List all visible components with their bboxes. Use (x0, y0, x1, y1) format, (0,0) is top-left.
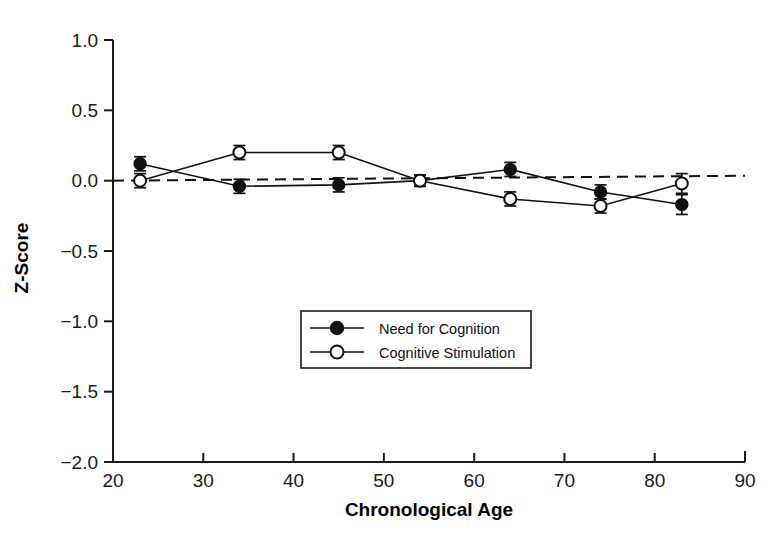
data-point-filled (134, 158, 146, 170)
legend-label: Need for Cognition (379, 321, 500, 337)
data-point-filled (504, 163, 516, 175)
data-point-filled (676, 199, 688, 211)
x-tick-label: 50 (373, 470, 394, 491)
y-axis-tick-labels: 1.00.50.0−0.5−1.0−1.5−2.0 (60, 30, 98, 473)
x-tick-label: 30 (193, 470, 214, 491)
y-tick-label: 1.0 (72, 30, 98, 51)
data-point-open (595, 200, 607, 212)
y-tick-label: −2.0 (60, 452, 98, 473)
x-tick-label: 40 (283, 470, 304, 491)
x-axis-title: Chronological Age (345, 499, 513, 520)
data-point-filled (333, 179, 345, 191)
data-point-open (414, 175, 426, 187)
x-tick-label: 80 (644, 470, 665, 491)
y-axis-ticks (104, 40, 113, 462)
chart-figure: 1.00.50.0−0.5−1.0−1.5−2.0 20304050607080… (0, 0, 776, 541)
legend-label: Cognitive Stimulation (379, 345, 515, 361)
data-point-filled (595, 186, 607, 198)
x-axis-ticks (113, 451, 745, 462)
x-tick-label: 70 (554, 470, 575, 491)
x-tick-label: 90 (734, 470, 755, 491)
legend-marker-filled (331, 322, 344, 335)
chart-legend: Need for CognitionCognitive Stimulation (301, 311, 531, 368)
data-point-filled (233, 180, 245, 192)
data-point-open (233, 147, 245, 159)
y-tick-label: 0.5 (72, 100, 98, 121)
chart-canvas: 1.00.50.0−0.5−1.0−1.5−2.0 20304050607080… (0, 0, 776, 541)
legend-marker-open (331, 346, 344, 359)
y-tick-label: −1.0 (60, 311, 98, 332)
data-point-open (504, 193, 516, 205)
x-axis-tick-labels: 2030405060708090 (102, 470, 755, 491)
x-tick-label: 20 (102, 470, 123, 491)
data-point-open (134, 175, 146, 187)
y-tick-label: −0.5 (60, 241, 98, 262)
x-tick-label: 60 (464, 470, 485, 491)
data-point-open (333, 147, 345, 159)
axis-frame (113, 40, 745, 462)
y-tick-label: 0.0 (72, 170, 98, 191)
data-point-open (676, 177, 688, 189)
y-axis-title: Z-Score (11, 223, 32, 294)
y-tick-label: −1.5 (60, 381, 98, 402)
